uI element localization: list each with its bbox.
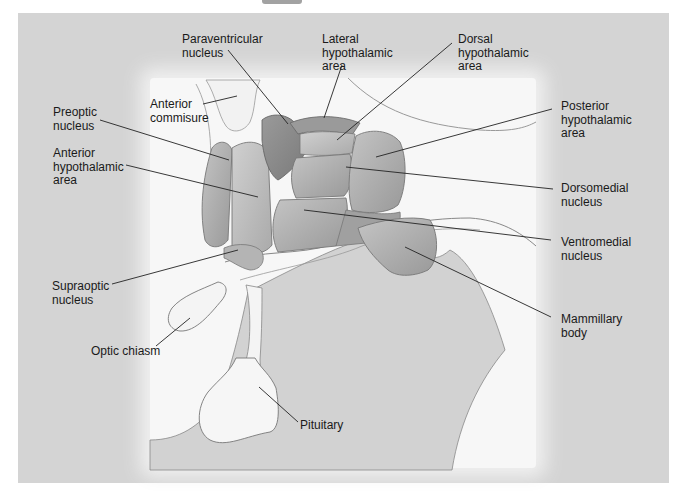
- label-supraoptic-nucleus: Supraoptic nucleus: [52, 280, 109, 307]
- label-pituitary: Pituitary: [300, 419, 343, 433]
- label-paraventricular-nucleus: Paraventricular nucleus: [182, 33, 263, 60]
- ventricle-outline: [348, 78, 536, 131]
- brainstem-shape: [150, 240, 505, 470]
- preoptic-nucleus-shape: [202, 142, 232, 247]
- label-anterior-hypothalamic-area: Anterior hypothalamic area: [53, 147, 124, 188]
- label-preoptic-nucleus: Preoptic nucleus: [53, 106, 97, 133]
- dorsal-hypothalamic-shape: [300, 132, 355, 156]
- label-mammillary-body: Mammillary body: [561, 313, 622, 340]
- label-anterior-commisure: Anterior commisure: [150, 98, 209, 125]
- label-posterior-hypothalamic-area: Posterior hypothalamic area: [561, 100, 632, 141]
- label-dorsal-hypothalamic-area: Dorsal hypothalamic area: [458, 33, 529, 74]
- label-ventromedial-nucleus: Ventromedial nucleus: [561, 236, 631, 263]
- anterior-commissure-shape: [206, 80, 260, 131]
- label-lateral-hypothalamic-area: Lateral hypothalamic area: [322, 33, 393, 74]
- supraoptic-shape: [224, 245, 263, 270]
- dorsomedial-shape: [292, 154, 353, 198]
- label-dorsomedial-nucleus: Dorsomedial nucleus: [561, 182, 628, 209]
- posterior-hypothalamic-shape: [349, 131, 405, 212]
- label-optic-chiasm: Optic chiasm: [91, 345, 160, 359]
- optic-chiasm-shape: [168, 282, 226, 331]
